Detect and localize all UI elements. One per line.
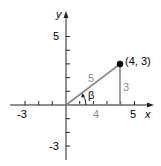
y-axis-label: y xyxy=(55,8,63,20)
hypotenuse-label: 5 xyxy=(88,72,94,84)
y-axis-arrow-icon xyxy=(64,11,69,18)
y-tick-label-5: 5 xyxy=(53,30,59,42)
x-tick-label-neg3: -3 xyxy=(17,108,27,120)
x-axis-label: x xyxy=(144,108,151,120)
point-4-3 xyxy=(117,61,123,67)
coordinate-diagram: y x 5 -3 -3 5 (4, 3) 5 3 4 β xyxy=(0,0,161,166)
x-axis-arrow-icon xyxy=(147,103,154,108)
y-axis-ticks xyxy=(66,37,70,147)
horizontal-leg-label: 4 xyxy=(93,108,99,120)
angle-label: β xyxy=(88,89,94,101)
y-tick-label-neg3: -3 xyxy=(49,140,59,152)
point-label: (4, 3) xyxy=(125,55,151,67)
x-tick-label-5: 5 xyxy=(130,108,136,120)
vertical-leg-label: 3 xyxy=(123,81,129,93)
